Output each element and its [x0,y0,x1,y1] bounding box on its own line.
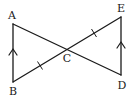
segment-be [13,17,121,82]
label-c: C [63,52,71,65]
equal-tick-bc [38,62,43,70]
geometry-diagram: A B C D E [0,0,132,101]
label-e: E [117,2,125,15]
equal-tick-ce [92,29,97,37]
label-d: D [118,79,127,92]
label-a: A [7,9,17,22]
label-b: B [9,85,17,98]
